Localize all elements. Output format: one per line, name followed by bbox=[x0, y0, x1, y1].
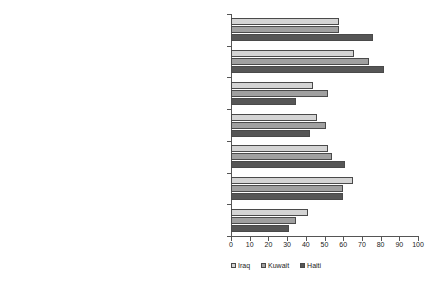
legend-swatch-icon bbox=[231, 263, 236, 268]
bar-chart: 0102030405060708090100 Combat the flow o… bbox=[0, 0, 426, 285]
bar-kuwait bbox=[231, 58, 369, 65]
x-tick-label: 20 bbox=[264, 241, 272, 248]
y-tick-mark bbox=[227, 14, 231, 15]
x-tick-label: 70 bbox=[358, 241, 366, 248]
y-tick-mark bbox=[227, 236, 231, 237]
x-tick-label: 90 bbox=[395, 241, 403, 248]
legend-item-haiti[interactable]: Haiti bbox=[300, 262, 321, 269]
bar-kuwait bbox=[231, 26, 339, 33]
bar-kuwait bbox=[231, 217, 296, 224]
legend-label: Haiti bbox=[307, 262, 321, 269]
bar-kuwait bbox=[231, 90, 328, 97]
x-tick-label: 100 bbox=[412, 241, 424, 248]
bar-haiti bbox=[231, 130, 310, 137]
x-tick-label: 60 bbox=[339, 241, 347, 248]
legend-swatch-icon bbox=[261, 263, 266, 268]
x-tick-label: 0 bbox=[229, 241, 233, 248]
bar-iraq bbox=[231, 82, 313, 89]
y-tick-mark bbox=[227, 77, 231, 78]
bar-haiti bbox=[231, 225, 289, 232]
bar-iraq bbox=[231, 145, 328, 152]
x-tick-label: 30 bbox=[283, 241, 291, 248]
bar-kuwait bbox=[231, 122, 326, 129]
y-tick-mark bbox=[227, 109, 231, 110]
bar-haiti bbox=[231, 193, 343, 200]
y-tick-mark bbox=[227, 204, 231, 205]
x-tick-label: 10 bbox=[246, 241, 254, 248]
bar-haiti bbox=[231, 98, 296, 105]
y-tick-mark bbox=[227, 46, 231, 47]
y-tick-mark bbox=[227, 141, 231, 142]
bar-iraq bbox=[231, 177, 353, 184]
legend-label: Iraq bbox=[238, 262, 250, 269]
legend-item-iraq[interactable]: Iraq bbox=[231, 262, 250, 269]
x-tick-label: 40 bbox=[302, 241, 310, 248]
legend-swatch-icon bbox=[300, 263, 305, 268]
bar-iraq bbox=[231, 18, 339, 25]
bar-haiti bbox=[231, 161, 345, 168]
x-tick-label: 80 bbox=[377, 241, 385, 248]
legend-item-kuwait[interactable]: Kuwait bbox=[261, 262, 289, 269]
x-tick-label: 50 bbox=[321, 241, 329, 248]
bar-haiti bbox=[231, 34, 373, 41]
bar-kuwait bbox=[231, 153, 332, 160]
bar-iraq bbox=[231, 114, 317, 121]
bar-iraq bbox=[231, 50, 354, 57]
bar-iraq bbox=[231, 209, 308, 216]
bar-haiti bbox=[231, 66, 384, 73]
y-tick-mark bbox=[227, 173, 231, 174]
bar-kuwait bbox=[231, 185, 343, 192]
chart-legend: IraqKuwaitHaiti bbox=[231, 262, 321, 269]
legend-label: Kuwait bbox=[268, 262, 289, 269]
